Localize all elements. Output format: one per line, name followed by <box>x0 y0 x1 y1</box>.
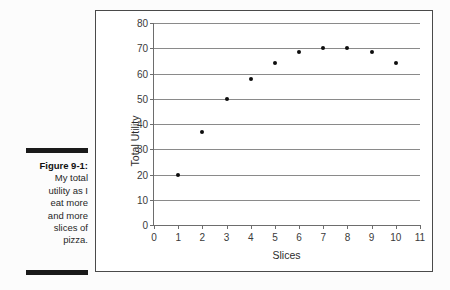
caption-rule-bottom <box>26 270 88 275</box>
x-axis-tick-mark <box>299 225 300 229</box>
y-axis-tick-label: 70 <box>137 43 148 54</box>
y-axis-tick-mark <box>150 200 154 201</box>
y-axis-tick-mark <box>150 48 154 49</box>
x-axis-tick-mark <box>275 225 276 229</box>
x-axis-tick-label: 4 <box>248 232 254 243</box>
x-axis-tick-label: 11 <box>415 232 425 243</box>
y-axis-tick-label: 40 <box>137 119 148 130</box>
data-point <box>394 61 398 65</box>
y-axis-tick-mark <box>150 23 154 24</box>
figure-caption-line: eat more <box>10 197 88 209</box>
x-axis-tick-mark <box>154 225 155 229</box>
y-axis-tick-mark <box>150 74 154 75</box>
x-axis-tick-mark <box>178 225 179 229</box>
data-point <box>273 61 277 65</box>
figure-caption-line: My total <box>10 172 88 184</box>
x-axis-tick-mark <box>372 225 373 229</box>
gridline-horizontal <box>154 48 420 49</box>
data-point <box>200 130 204 134</box>
x-axis-tick-mark <box>420 225 421 229</box>
x-axis-tick-mark <box>251 225 252 229</box>
figure-caption-line: and more <box>10 210 88 222</box>
x-axis-tick-label: 9 <box>369 232 375 243</box>
x-axis-tick-mark <box>202 225 203 229</box>
y-axis-tick-label: 30 <box>137 144 148 155</box>
x-axis-tick-label: 2 <box>200 232 206 243</box>
y-axis-tick-mark <box>150 149 154 150</box>
plot-area: 0102030405060708001234567891011 <box>153 23 420 226</box>
x-axis-title: Slices <box>153 249 420 261</box>
data-point <box>321 46 325 50</box>
y-axis-tick-label: 50 <box>137 93 148 104</box>
x-axis-tick-mark <box>323 225 324 229</box>
gridline-horizontal <box>154 74 420 75</box>
y-axis-tick-mark <box>150 175 154 176</box>
figure-caption-line: utility as I <box>10 185 88 197</box>
data-point <box>345 46 349 50</box>
gridline-horizontal <box>154 124 420 125</box>
gridline-horizontal <box>154 200 420 201</box>
x-axis-tick-label: 10 <box>390 232 401 243</box>
chart-frame: Total Utility 01020304050607080012345678… <box>95 10 433 272</box>
caption-rule-top <box>26 148 88 153</box>
data-point <box>249 77 253 81</box>
y-axis-tick-label: 20 <box>137 169 148 180</box>
x-axis-tick-label: 8 <box>345 232 351 243</box>
data-point <box>176 173 180 177</box>
x-axis-tick-label: 7 <box>320 232 326 243</box>
y-axis-tick-mark <box>150 124 154 125</box>
figure-caption-line: pizza. <box>10 234 88 246</box>
y-axis-tick-label: 60 <box>137 68 148 79</box>
gridline-horizontal <box>154 23 420 24</box>
gridline-horizontal <box>154 175 420 176</box>
gridline-horizontal <box>154 149 420 150</box>
figure-caption: Figure 9-1: My total utility as I eat mo… <box>10 160 88 247</box>
data-point <box>225 97 229 101</box>
y-axis-tick-label: 10 <box>137 194 148 205</box>
x-axis-tick-label: 1 <box>175 232 181 243</box>
figure-caption-label: Figure 9-1: <box>10 160 88 172</box>
data-point <box>370 50 374 54</box>
x-axis-tick-label: 6 <box>296 232 302 243</box>
x-axis-tick-label: 5 <box>272 232 278 243</box>
x-axis-tick-mark <box>347 225 348 229</box>
x-axis-tick-label: 3 <box>224 232 230 243</box>
x-axis-tick-mark <box>396 225 397 229</box>
x-axis-tick-label: 0 <box>151 232 157 243</box>
figure-caption-line: slices of <box>10 222 88 234</box>
y-axis-tick-label: 0 <box>142 220 148 231</box>
x-axis-tick-mark <box>227 225 228 229</box>
y-axis-tick-mark <box>150 99 154 100</box>
y-axis-tick-label: 80 <box>137 18 148 29</box>
data-point <box>297 50 301 54</box>
gridline-horizontal <box>154 99 420 100</box>
